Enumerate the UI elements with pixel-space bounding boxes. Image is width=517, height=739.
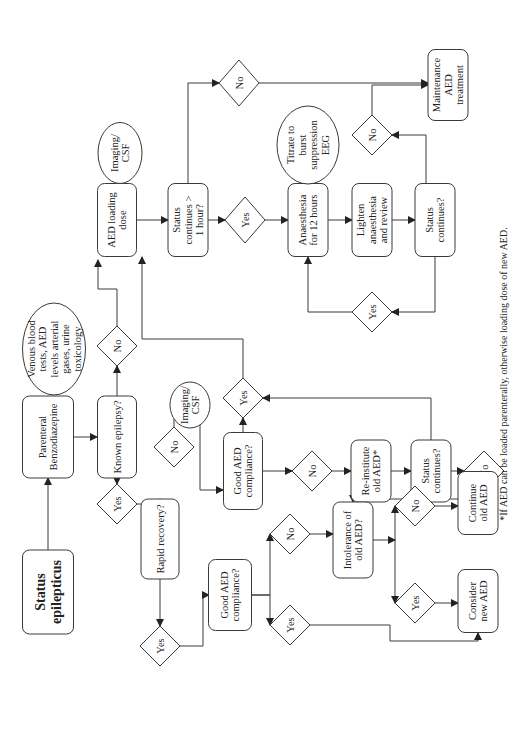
- node-label: continues?: [431, 448, 442, 493]
- footnote: *If AED can be loaded parenterally, othe…: [498, 227, 509, 520]
- node-label: and review: [378, 196, 389, 243]
- node-label: Yes: [285, 617, 296, 632]
- node-label: Good AED: [232, 447, 243, 494]
- node-label: Consider: [467, 582, 478, 620]
- node-label: Lighten: [355, 203, 366, 236]
- node-imaging-csf-mid: Imaging/CSF: [170, 382, 210, 428]
- node-label: Re-institute: [360, 446, 371, 495]
- node-label: for 12 hours: [308, 194, 319, 245]
- node-label: burst: [297, 134, 308, 155]
- node-label: Good AED: [219, 571, 230, 618]
- node-gt1h-no: No: [219, 60, 259, 106]
- node-label: levels arterial: [49, 320, 60, 377]
- node-known-epilepsy: Known epilepsy?: [98, 396, 137, 478]
- node-label: old AED?: [353, 519, 364, 561]
- node-titrate-eeg: Titrate toburstsuppressionEEG: [277, 106, 339, 184]
- node-label: Titrate to: [285, 126, 296, 164]
- node-label: No: [234, 77, 245, 90]
- node-label: Known epilepsy?: [112, 400, 123, 474]
- node-rapid-recovery: Rapid recovery?: [141, 499, 179, 579]
- node-label: compliance?: [230, 568, 241, 621]
- node-label: Yes: [367, 304, 378, 319]
- node-venous-tests: Venous bloodtests, AEDlevels arterialgas…: [23, 303, 86, 395]
- flowchart-canvas: StatusepilepticusParenteralBenzodiazepin…: [0, 0, 517, 739]
- node-label: treatment: [454, 65, 465, 105]
- connector-no-to-aed: [98, 260, 117, 326]
- connector-low-to-split: [251, 534, 270, 595]
- process-box: [23, 550, 74, 634]
- node-mid-no: No: [292, 451, 332, 491]
- node-mid-yes: Yes: [223, 378, 263, 418]
- connector-status-to-midyes: [263, 398, 431, 440]
- node-label: new AED: [478, 580, 489, 622]
- node-consider-new: Considernew AED: [458, 570, 498, 633]
- node-label: continues >: [183, 196, 194, 245]
- node-label: No: [410, 500, 421, 513]
- node-lighten: Lightenanaesthesiaand review: [352, 184, 392, 257]
- node-low-no: No: [270, 514, 310, 554]
- connector-rapidyes-to-low: [180, 595, 209, 646]
- node-label: Anaesthesia: [297, 194, 308, 245]
- node-label: Yes: [238, 390, 249, 405]
- node-label: tests, AED: [37, 326, 48, 371]
- node-status-epilepticus: Statusepilepticus: [23, 550, 74, 634]
- connector-gt1h-to-no: [188, 83, 219, 183]
- node-label: Imaging/: [179, 386, 190, 424]
- node-right-no: No: [352, 115, 392, 155]
- node-label: dose: [117, 210, 128, 230]
- node-intol-yes: Yes: [395, 583, 435, 623]
- node-label: old AED: [478, 484, 489, 521]
- node-label: CSF: [190, 396, 201, 415]
- node-loop-yes: Yes: [352, 292, 392, 332]
- node-label: Continue: [467, 483, 478, 522]
- connector-rightno-to-maint: [372, 85, 428, 115]
- node-status-gt-1h: Statuscontinues >1 hour?: [168, 184, 208, 257]
- node-low-yes: Yes: [270, 605, 310, 645]
- node-label: compliance?: [243, 444, 254, 497]
- node-label: CSF: [120, 144, 131, 163]
- node-label: 1 hour?: [194, 204, 205, 236]
- node-good-compliance-mid: Good AEDcompliance?: [224, 433, 263, 510]
- node-label: No: [112, 340, 123, 353]
- node-anaesthesia: Anaesthesiafor 12 hours: [288, 184, 328, 257]
- node-label: Status: [420, 458, 431, 484]
- node-label: No: [169, 441, 180, 454]
- node-label: Benzodiazepine: [48, 403, 59, 470]
- node-label: AED: [443, 74, 454, 96]
- node-intolerance: Intolerance ofold AED?: [333, 502, 373, 578]
- node-status-continues-right: Statuscontinues?: [415, 184, 455, 257]
- node-label: Maintenance: [431, 58, 442, 113]
- node-label: No: [307, 465, 318, 478]
- node-continue-old: Continueold AED: [458, 472, 498, 535]
- nodes: StatusepilepticusParenteralBenzodiazepin…: [23, 50, 505, 667]
- connector-lowyes-to-cons: [310, 625, 478, 641]
- node-label: No: [285, 528, 296, 541]
- node-known-no: No: [97, 326, 137, 366]
- connector-midyes-to-aed: [142, 257, 243, 378]
- connector-low-to-yes: [251, 595, 270, 625]
- node-label: toxicology: [72, 326, 83, 372]
- node-label: Rapid recovery?: [155, 504, 166, 573]
- node-label: No: [367, 129, 378, 142]
- node-gt1h-yes: Yes: [225, 197, 265, 243]
- node-known-yes: Yes: [97, 484, 137, 524]
- node-label: old AED*: [371, 450, 382, 492]
- node-label: suppression: [308, 119, 319, 169]
- node-label: anaesthesia: [367, 196, 378, 244]
- node-label: Status: [424, 207, 435, 233]
- node-good-compliance-low: Good AEDcompliance?: [209, 560, 252, 631]
- node-label: Yes: [155, 638, 166, 653]
- node-label: EEG: [320, 134, 331, 155]
- node-rapid-yes: Yes: [140, 626, 180, 666]
- node-label: Status: [171, 207, 182, 233]
- node-label: Parenteral: [37, 416, 48, 459]
- node-label: Status: [33, 573, 48, 611]
- node-rapid-no: No: [154, 427, 194, 467]
- flowchart-svg: StatusepilepticusParenteralBenzodiazepin…: [0, 0, 517, 739]
- node-label: Imaging/: [109, 134, 120, 172]
- node-label: Yes: [410, 595, 421, 610]
- node-label: Yes: [240, 212, 251, 227]
- node-label: Yes: [112, 496, 123, 511]
- node-label: AED loading: [106, 191, 117, 247]
- node-aed-loading: AED loadingdose: [98, 184, 137, 257]
